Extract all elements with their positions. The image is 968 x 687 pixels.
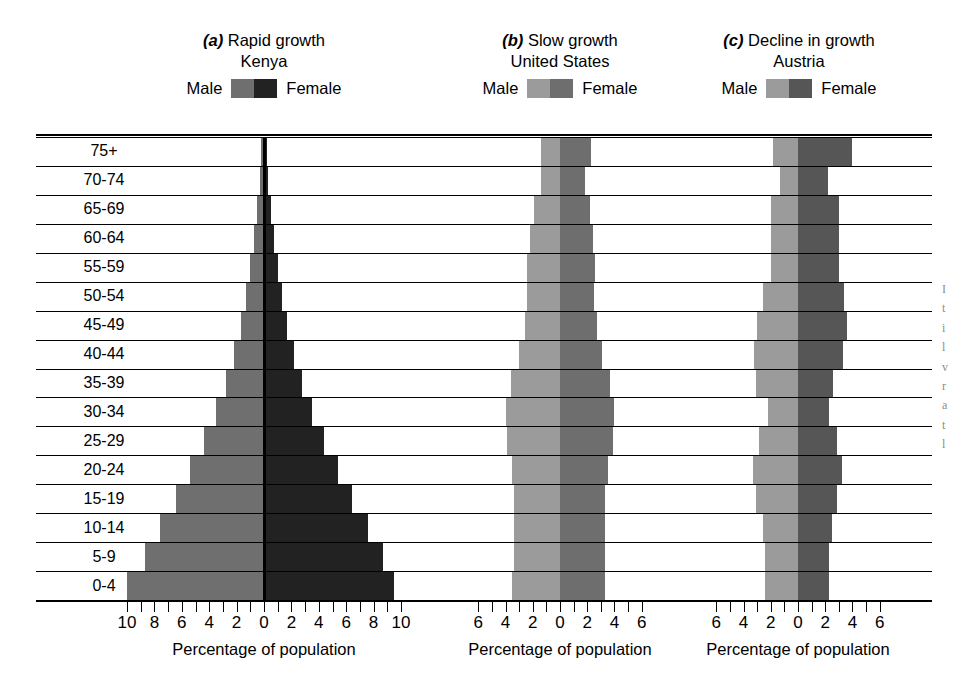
bar-male — [763, 513, 798, 542]
panel-descriptor-b: Slow growth — [528, 31, 618, 49]
panel-letter-c: (c) — [723, 31, 743, 49]
row-gridline — [36, 397, 932, 398]
bar-female — [798, 253, 839, 282]
bar-female — [798, 397, 829, 426]
pyramid-row — [36, 311, 932, 340]
pyramid-row — [36, 253, 932, 282]
age-group-label: 35-39 — [58, 370, 150, 396]
legend-a: Male Female — [144, 79, 384, 98]
bar-female — [264, 513, 368, 542]
pyramid-row — [36, 282, 932, 311]
axis-tick — [880, 601, 881, 612]
row-gridline — [36, 571, 932, 572]
plot-frame-top — [36, 134, 932, 136]
axis-tick — [716, 601, 717, 612]
bar-female — [560, 455, 608, 484]
row-gridline — [36, 282, 932, 283]
bar-female — [798, 455, 842, 484]
legend-female-label-c: Female — [821, 79, 876, 98]
row-gridline — [36, 513, 932, 514]
bar-female — [264, 369, 302, 398]
bar-male — [216, 397, 264, 426]
bar-female — [798, 513, 832, 542]
axis-title-a: Percentage of population — [148, 640, 380, 659]
bar-male — [756, 369, 798, 398]
row-gridline — [36, 311, 932, 312]
bar-female — [560, 369, 610, 398]
bar-female — [264, 542, 383, 571]
legend-female-label-b: Female — [582, 79, 637, 98]
bar-male — [768, 397, 798, 426]
row-gridline — [36, 224, 932, 225]
axis-tick-label: 0 — [783, 613, 813, 633]
bar-male — [506, 397, 560, 426]
bar-female — [264, 397, 312, 426]
bar-male — [514, 542, 560, 571]
age-group-label: 70-74 — [58, 167, 150, 193]
bar-female — [264, 484, 352, 513]
panel-header-b: (b) Slow growth United States Male Femal… — [446, 30, 674, 98]
age-group-label: 55-59 — [58, 254, 150, 280]
cropped-margin-text: Itilvratl — [942, 280, 968, 455]
bar-female — [560, 397, 614, 426]
legend-female-label-a: Female — [286, 79, 341, 98]
axis-tick-label: 4 — [837, 613, 867, 633]
bar-female — [264, 340, 294, 369]
bar-female — [798, 166, 828, 195]
pyramid-row — [36, 397, 932, 426]
bar-male — [514, 484, 560, 513]
bar-female — [798, 369, 833, 398]
bar-female — [560, 166, 585, 195]
age-group-label: 40-44 — [58, 341, 150, 367]
age-group-label: 75+ — [58, 138, 150, 164]
panel-title-b: (b) Slow growth — [446, 30, 674, 51]
population-pyramid-figure: (a) Rapid growth Kenya Male Female (b) S… — [0, 0, 968, 687]
bar-female — [798, 571, 829, 600]
bar-female — [798, 137, 852, 166]
bar-female — [798, 542, 829, 571]
bar-male — [241, 311, 264, 340]
bar-male — [757, 311, 798, 340]
bar-male — [234, 340, 264, 369]
row-gridline — [36, 426, 932, 427]
pyramid-row — [36, 137, 932, 166]
bar-female — [798, 340, 843, 369]
axis-title-b: Percentage of population — [444, 640, 676, 659]
axis-tick — [744, 601, 745, 612]
row-gridline — [36, 484, 932, 485]
axis-tick — [757, 601, 758, 612]
panel-country-a: Kenya — [144, 51, 384, 72]
bar-male — [190, 455, 264, 484]
bar-female — [560, 282, 594, 311]
panel-descriptor-c: Decline in growth — [748, 31, 875, 49]
bar-male — [534, 195, 560, 224]
axis-tick — [730, 601, 731, 612]
pyramid-row — [36, 369, 932, 398]
plot-area: 75+70-7465-6960-6455-5950-5445-4940-4435… — [36, 137, 932, 600]
axis-tick-label: 6 — [701, 613, 731, 633]
age-group-label: 0-4 — [58, 573, 150, 599]
row-gridline — [36, 455, 932, 456]
bar-female — [264, 282, 282, 311]
bar-male — [765, 542, 798, 571]
bar-female — [560, 426, 613, 455]
age-group-label: 45-49 — [58, 312, 150, 338]
bar-male — [756, 484, 798, 513]
bar-male — [765, 571, 798, 600]
bar-male — [530, 224, 560, 253]
bar-male — [226, 369, 264, 398]
bar-female — [798, 311, 847, 340]
bar-female — [798, 195, 839, 224]
bar-female — [798, 484, 837, 513]
pyramid-row — [36, 224, 932, 253]
axis-tick — [812, 601, 813, 612]
bar-male — [541, 137, 560, 166]
axis-tick-label: 2 — [810, 613, 840, 633]
legend-male-label-a: Male — [187, 79, 223, 98]
bar-male — [246, 282, 264, 311]
bar-female — [264, 426, 324, 455]
bar-male — [527, 282, 560, 311]
bar-male — [250, 253, 264, 282]
age-group-label: 15-19 — [58, 486, 150, 512]
bar-male — [780, 166, 798, 195]
